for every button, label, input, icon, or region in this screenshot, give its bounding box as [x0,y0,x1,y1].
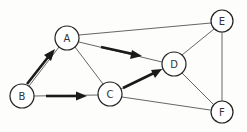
arrow-a-d [101,47,142,59]
node-b-label: B [19,91,26,102]
node-b[interactable]: B [10,84,34,108]
arrow-b-c [46,92,87,101]
edge-c-f [122,97,210,110]
edge-a-c [75,47,103,84]
node-d[interactable]: D [162,52,186,76]
edge-a-e [79,23,211,35]
node-c[interactable]: C [98,82,122,106]
arrow-b-a [27,49,55,84]
node-e-label: E [219,16,225,27]
edge-d-f [182,73,213,104]
edge-b-a [29,47,59,86]
arrows [27,47,162,101]
node-a-label: A [64,33,71,44]
node-a[interactable]: A [55,26,79,50]
node-e[interactable]: E [211,10,233,32]
node-f[interactable]: F [211,101,233,123]
node-c-label: C [107,89,114,100]
node-f-label: F [219,107,225,118]
edge-d-e [182,29,214,55]
graph-diagram: A B C D E F [0,0,247,132]
node-d-label: D [170,59,178,70]
arrow-c-d [123,69,162,88]
